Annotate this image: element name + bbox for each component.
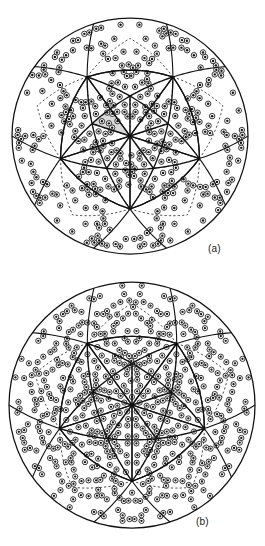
pole-dot xyxy=(174,115,176,117)
pole-dot xyxy=(77,324,79,326)
pole-dot xyxy=(35,176,37,178)
pole-dot xyxy=(109,229,111,231)
pole-symbol xyxy=(115,80,120,85)
pole-dot xyxy=(101,242,103,244)
pole-dot xyxy=(144,38,146,40)
pole-dot xyxy=(149,229,151,231)
pole-dot xyxy=(145,445,147,447)
pole-symbol xyxy=(78,393,83,398)
pole-dot xyxy=(27,423,29,425)
pole-symbol xyxy=(189,489,194,494)
pole-dot xyxy=(169,360,171,362)
pole-symbol xyxy=(72,351,77,356)
pole-symbol xyxy=(119,482,124,487)
pole-symbol xyxy=(212,72,217,77)
pole-dot xyxy=(16,411,18,413)
pole-dot xyxy=(193,506,195,508)
pole-symbol xyxy=(119,63,124,68)
pole-dot xyxy=(49,351,51,353)
pole-symbol xyxy=(186,397,191,402)
pole-dot xyxy=(138,352,140,354)
panel-b-label: (b) xyxy=(196,516,209,527)
pole-dot xyxy=(135,51,137,53)
pole-dot xyxy=(170,171,172,173)
pole-symbol xyxy=(140,426,145,431)
pole-dot xyxy=(119,450,121,452)
pole-symbol xyxy=(91,410,96,415)
pole-dot xyxy=(152,244,154,246)
pole-dot xyxy=(178,381,180,383)
pole-symbol xyxy=(173,137,178,142)
pole-dot xyxy=(150,330,152,332)
pole-symbol xyxy=(154,216,159,221)
pole-dot xyxy=(68,118,70,120)
pole-dot xyxy=(97,160,99,162)
pole-dot xyxy=(111,126,113,128)
pole-dot xyxy=(59,97,61,99)
pole-dot xyxy=(148,62,150,64)
pole-symbol xyxy=(185,229,190,234)
pole-dot xyxy=(160,160,162,162)
pole-dot xyxy=(109,381,111,383)
pole-symbol xyxy=(164,429,169,434)
pole-dot xyxy=(90,429,92,431)
pole-dot xyxy=(167,100,169,102)
pole-symbol xyxy=(161,205,166,210)
pole-symbol xyxy=(107,454,112,459)
pole-dot xyxy=(156,430,158,432)
pole-symbol xyxy=(63,460,68,465)
pole-dot xyxy=(232,383,234,385)
pole-dot xyxy=(33,409,35,411)
pole-dot xyxy=(76,346,78,348)
pole-symbol xyxy=(80,169,85,174)
pole-dot xyxy=(81,443,83,445)
pole-symbol xyxy=(217,395,222,400)
pole-dot xyxy=(189,352,191,354)
pole-dot xyxy=(136,379,138,381)
pole-dot xyxy=(231,391,233,393)
pole-dot xyxy=(194,132,196,134)
pole-dot xyxy=(117,509,119,511)
pole-dot xyxy=(148,492,150,494)
pole-symbol xyxy=(93,378,98,383)
pole-dot xyxy=(164,197,166,199)
pole-dot xyxy=(55,465,57,467)
pole-symbol xyxy=(79,99,84,104)
pole-dot xyxy=(159,474,161,476)
pole-symbol xyxy=(15,132,20,137)
pole-dot xyxy=(176,386,178,388)
pole-dot xyxy=(184,109,186,111)
pole-symbol xyxy=(114,374,119,379)
pole-symbol xyxy=(201,384,206,389)
pole-dot xyxy=(124,352,126,354)
pole-symbol xyxy=(160,493,165,498)
pole-dot xyxy=(197,343,199,345)
pole-symbol xyxy=(124,453,129,458)
pole-dot xyxy=(126,442,128,444)
pole-dot xyxy=(90,47,92,49)
pole-dot xyxy=(60,114,62,116)
pole-symbol xyxy=(159,159,164,164)
pole-symbol xyxy=(150,155,155,160)
pole-symbol xyxy=(137,292,142,297)
pole-dot xyxy=(138,24,140,26)
pole-symbol xyxy=(166,372,171,377)
pole-dot xyxy=(68,331,70,333)
pole-dot xyxy=(207,399,209,401)
pole-dot xyxy=(67,363,69,365)
pole-symbol xyxy=(79,442,84,447)
pole-dot xyxy=(102,52,104,54)
pole-dot xyxy=(207,103,209,105)
pole-dot xyxy=(101,432,103,434)
pole-dot xyxy=(148,435,150,437)
pole-symbol xyxy=(110,91,115,96)
pole-dot xyxy=(187,399,189,401)
pole-dot xyxy=(209,448,211,450)
pole-dot xyxy=(123,337,125,339)
pole-symbol xyxy=(125,441,130,446)
pole-symbol xyxy=(48,77,53,82)
pole-dot xyxy=(162,512,164,514)
pole-dot xyxy=(223,430,225,432)
pole-dot xyxy=(226,149,228,151)
pole-symbol xyxy=(166,99,171,104)
